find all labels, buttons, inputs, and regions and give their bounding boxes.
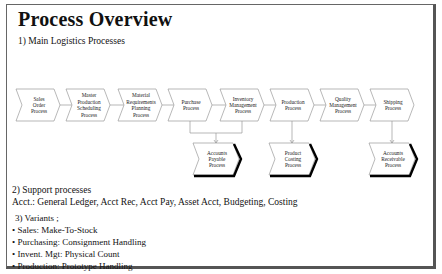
variants-section: 3) Variants ; Sales: Make-To-Stock Purch… bbox=[12, 212, 146, 272]
variants-list: Sales: Make-To-Stock Purchasing: Consign… bbox=[12, 224, 146, 272]
process-label: Product bbox=[285, 150, 302, 156]
process-label: Purchase bbox=[181, 99, 201, 105]
process-step-sales: SalesOrderProcess bbox=[16, 89, 60, 121]
process-step-purchase: PurchaseProcess bbox=[168, 89, 212, 121]
process-step-quality: QualityManagementProcess bbox=[320, 89, 364, 121]
variants-heading: 3) Variants ; bbox=[15, 212, 146, 224]
process-step-mrp: MaterialRequirementsPlanningProcess bbox=[118, 89, 162, 121]
process-label: Master bbox=[82, 92, 97, 98]
process-label: Process bbox=[133, 112, 149, 118]
process-label: Planning bbox=[132, 105, 151, 111]
process-label: Process bbox=[285, 162, 301, 168]
process-label: Process bbox=[31, 108, 47, 114]
process-label: Inventory bbox=[233, 96, 254, 102]
process-label: Sales bbox=[33, 96, 44, 102]
process-label: Accounts bbox=[383, 150, 403, 156]
support-text: Acct.: General Ledger, Acct Rec, Acct Pa… bbox=[12, 196, 298, 208]
process-label: Production bbox=[77, 99, 101, 105]
process-label: Process bbox=[81, 112, 97, 118]
sub-process-group: AccountsPayableProcessProductCostingProc… bbox=[193, 143, 417, 176]
process-step-inventory: InventoryManagementProcess bbox=[220, 89, 264, 121]
process-label: Shipping bbox=[383, 99, 402, 105]
process-label: Process bbox=[285, 105, 301, 111]
variant-item: Sales: Make-To-Stock bbox=[12, 224, 146, 236]
process-label: Costing bbox=[285, 156, 302, 162]
process-label: Process bbox=[385, 162, 401, 168]
variant-item: Purchasing: Consignment Handling bbox=[12, 236, 146, 248]
support-heading: 2) Support processes bbox=[12, 184, 298, 196]
process-label: Process bbox=[385, 105, 401, 111]
process-label: Process bbox=[209, 162, 225, 168]
process-label: Requirements bbox=[126, 99, 155, 105]
process-step-mps: MasterProductionSchedulingProcess bbox=[66, 89, 110, 121]
process-label: Payable bbox=[209, 156, 226, 162]
variant-item: Production: Prototype Handling bbox=[12, 260, 146, 272]
support-processes-section: 2) Support processes Acct.: General Ledg… bbox=[12, 184, 298, 208]
subprocess-pc: ProductCostingProcess bbox=[269, 143, 317, 176]
process-label: Receivable bbox=[381, 156, 405, 162]
process-label: Process bbox=[235, 108, 251, 114]
variant-item: Invent. Mgt: Physical Count bbox=[12, 248, 146, 260]
process-step-production: ProductionProcess bbox=[270, 89, 314, 121]
process-label: Process bbox=[183, 105, 199, 111]
process-label: Process bbox=[335, 108, 351, 114]
process-label: Accounts bbox=[207, 150, 227, 156]
subprocess-ar: AccountsReceivableProcess bbox=[369, 143, 417, 176]
process-label: Quality bbox=[335, 96, 351, 102]
process-label: Production bbox=[281, 99, 305, 105]
process-label: Management bbox=[329, 102, 357, 108]
process-step-shipping: ShippingProcess bbox=[370, 89, 414, 121]
process-label: Material bbox=[132, 92, 150, 98]
process-label: Order bbox=[33, 102, 46, 108]
subprocess-ap: AccountsPayableProcess bbox=[193, 143, 241, 176]
process-label: Management bbox=[229, 102, 257, 108]
process-label: Scheduling bbox=[77, 105, 101, 111]
